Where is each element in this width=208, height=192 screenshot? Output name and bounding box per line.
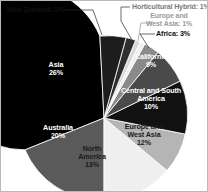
callout-label-europe-west-asia-small-line2: West Asia: 1%	[146, 20, 192, 27]
leader-line-horticultural-hybrid	[121, 7, 132, 40]
callout-label-europe-west-asia-small-line1: Europe and	[150, 12, 188, 19]
callout-label-africa: Africa: 3%	[156, 30, 190, 38]
pie-chart-figure: Asia 26% Australia 20% North America 13%…	[0, 0, 208, 192]
callout-label-new-zealand: New Zealand: 2%	[7, 6, 64, 14]
callout-label-horticultural-hybrid: Horticultural Hybrid: 1%	[132, 3, 208, 11]
callout-label-europe-west-asia-small: Europe and West Asia: 1%	[142, 12, 196, 28]
